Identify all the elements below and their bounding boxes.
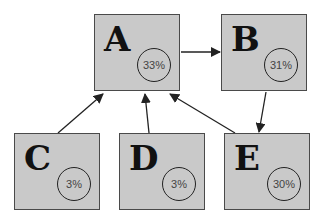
edge-e-to-a xyxy=(170,94,235,133)
percent-badge: 33% xyxy=(137,48,171,82)
edge-c-to-a xyxy=(58,94,103,133)
node-c: C 3% xyxy=(14,133,100,210)
node-label: D xyxy=(129,140,158,176)
edge-d-to-a xyxy=(145,94,149,133)
node-d: D 3% xyxy=(119,133,205,210)
percent-badge: 30% xyxy=(267,167,301,201)
node-e: E 30% xyxy=(224,133,310,210)
percent-badge: 3% xyxy=(57,167,91,201)
node-label: E xyxy=(234,140,260,176)
node-label: B xyxy=(231,21,260,57)
node-a: A 33% xyxy=(94,14,180,91)
node-label: C xyxy=(24,140,51,176)
percent-badge: 3% xyxy=(162,167,196,201)
edge-b-to-e xyxy=(259,92,266,132)
node-label: A xyxy=(104,21,130,57)
node-b: B 31% xyxy=(221,14,307,91)
percent-badge: 31% xyxy=(264,48,298,82)
